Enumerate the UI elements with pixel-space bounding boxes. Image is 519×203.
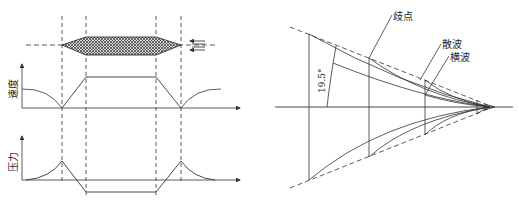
angle-label: 19.5° — [317, 68, 327, 93]
pressure-plot — [22, 136, 240, 192]
transverse-wave-label: 横波 — [450, 51, 470, 63]
leader-bifurcation — [369, 15, 392, 58]
flow-arrows-icon — [190, 41, 205, 50]
pressure-axis-label: 压力 — [7, 152, 19, 172]
velocity-plot — [22, 64, 240, 108]
bifurcation-point-label: 歧点 — [393, 10, 413, 22]
left-diagram — [22, 16, 240, 196]
velocity-axis-label: 速度 — [7, 79, 19, 99]
right-diagram — [275, 15, 513, 188]
leader-transverse — [425, 56, 449, 95]
lower-envelope — [290, 107, 493, 188]
upper-envelope — [290, 27, 493, 107]
diagram-canvas: 速度 压力 19.5° 歧点 散波 横波 — [0, 0, 519, 203]
scattered-wave-label: 散波 — [442, 38, 462, 50]
projectile-body — [62, 37, 181, 55]
